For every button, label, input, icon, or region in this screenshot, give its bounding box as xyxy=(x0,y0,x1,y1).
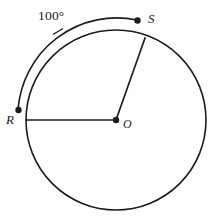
geometry-canvas xyxy=(0,0,212,217)
point-label-r: R xyxy=(6,113,14,126)
outer-arc-rs xyxy=(18,18,137,110)
arc-measure-label: 100° xyxy=(38,9,64,23)
center-point-dot-o xyxy=(113,117,119,123)
arc-endpoint-dot-s xyxy=(134,17,140,23)
point-label-s: S xyxy=(148,12,155,25)
arc-tick-mark xyxy=(53,29,63,35)
arc-endpoint-dot-r xyxy=(15,107,21,113)
geometry-diagram: 100° S R O xyxy=(0,0,212,217)
radius-segment-os xyxy=(116,37,145,120)
point-label-o: O xyxy=(123,118,132,130)
